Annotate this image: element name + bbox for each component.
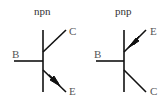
npn-collector-label: C xyxy=(69,26,76,37)
npn-base-label: B xyxy=(12,49,19,60)
npn-symbol xyxy=(14,30,66,92)
pnp-base-label: B xyxy=(94,49,101,60)
pnp-collector-label: C xyxy=(150,86,157,97)
pnp-symbol xyxy=(96,30,146,92)
pnp-title: pnp xyxy=(115,6,132,17)
pnp-collector-lead xyxy=(124,70,146,92)
pnp-emitter-label: E xyxy=(150,26,157,37)
npn-title: npn xyxy=(34,6,51,17)
npn-emitter-label: E xyxy=(69,86,76,97)
transistor-diagram xyxy=(0,0,165,103)
npn-collector-lead xyxy=(43,30,66,52)
